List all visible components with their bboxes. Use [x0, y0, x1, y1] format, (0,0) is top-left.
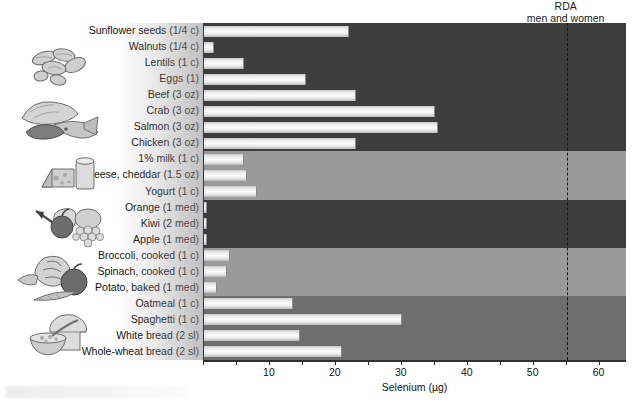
bar — [204, 298, 293, 309]
x-tick — [368, 360, 369, 365]
bar — [204, 234, 207, 245]
x-tick-label: 60 — [593, 366, 605, 378]
x-tick-label: 40 — [461, 366, 473, 378]
bar — [204, 266, 227, 277]
selenium-food-chart: RDA men and women Sunflower seeds (1/4 c… — [0, 0, 635, 404]
bar — [204, 58, 244, 69]
x-tick — [203, 360, 204, 365]
plot-area — [203, 23, 626, 360]
bar — [204, 42, 214, 53]
scan-artifact — [6, 386, 186, 398]
bar — [204, 282, 217, 293]
fruit-icon — [30, 203, 116, 251]
bar — [204, 250, 230, 261]
x-tick-label: 30 — [395, 366, 407, 378]
category-label: 1% milk (1 c) — [3, 152, 203, 164]
x-tick — [533, 360, 534, 365]
band-fruits — [204, 200, 626, 248]
x-tick — [335, 360, 336, 365]
x-tick — [302, 360, 303, 365]
bar — [204, 26, 349, 37]
x-tick — [401, 360, 402, 365]
x-tick-label: 50 — [527, 366, 539, 378]
bar — [204, 330, 300, 341]
x-tick-label: 10 — [263, 366, 275, 378]
bar — [204, 202, 207, 213]
bar — [204, 138, 356, 149]
vegetables-icon — [14, 250, 104, 306]
band-vegetables — [204, 248, 626, 296]
nuts-icon — [28, 46, 90, 88]
x-tick — [467, 360, 468, 365]
x-tick — [434, 360, 435, 365]
x-tick — [269, 360, 270, 365]
cheese-milk-icon — [38, 155, 100, 197]
x-tick — [500, 360, 501, 365]
x-axis-line — [203, 360, 626, 362]
bar — [204, 170, 247, 181]
x-axis-title: Selenium (µg) — [203, 381, 626, 393]
x-tick — [236, 360, 237, 365]
bar — [204, 218, 207, 229]
bar — [204, 346, 342, 357]
rda-annotation: RDA men and women — [506, 1, 626, 24]
bar — [204, 186, 257, 197]
rda-annotation-line1: RDA — [506, 1, 626, 13]
bar — [204, 122, 438, 133]
rda-reference-line — [567, 23, 568, 360]
meat-fish-icon — [14, 92, 102, 148]
x-tick — [566, 360, 567, 365]
category-label: Sunflower seeds (1/4 c) — [3, 24, 203, 36]
band-dairy-foods — [204, 151, 626, 199]
bar — [204, 314, 402, 325]
bar — [204, 74, 306, 85]
category-label: Yogurt (1 c) — [3, 185, 203, 197]
x-tick — [599, 360, 600, 365]
bar — [204, 154, 244, 165]
bar — [204, 90, 356, 101]
category-label: Cheese, cheddar (1.5 oz) — [3, 168, 203, 180]
x-tick-label: 20 — [329, 366, 341, 378]
bread-cereal-icon — [26, 310, 106, 360]
bar — [204, 106, 435, 117]
